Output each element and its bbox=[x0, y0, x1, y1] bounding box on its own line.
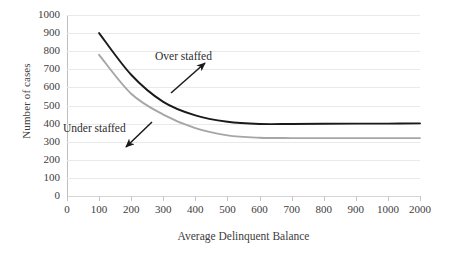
y-axis-tick-label: 700 bbox=[16, 63, 60, 74]
x-axis-tick-label: 2000 bbox=[400, 203, 440, 215]
gridline bbox=[67, 142, 420, 143]
x-axis-tick-mark bbox=[227, 196, 228, 201]
x-axis-tick-mark bbox=[388, 196, 389, 201]
y-axis-tick-label: 0 bbox=[16, 190, 60, 201]
x-axis-tick-mark bbox=[292, 196, 293, 201]
gridline bbox=[67, 15, 420, 16]
y-axis-tick-label: 900 bbox=[16, 27, 60, 38]
y-axis-tick-label: 100 bbox=[16, 172, 60, 183]
gridline bbox=[67, 33, 420, 34]
annotation-label-under-staffed: Under staffed bbox=[63, 122, 126, 134]
gridline bbox=[67, 106, 420, 107]
y-axis-tick-label: 400 bbox=[16, 118, 60, 129]
x-axis-tick-mark bbox=[356, 196, 357, 201]
gridline bbox=[67, 160, 420, 161]
x-axis-tick-mark bbox=[99, 196, 100, 201]
gridline bbox=[67, 87, 420, 88]
x-axis-tick-mark bbox=[131, 196, 132, 201]
y-axis-tick-label: 800 bbox=[16, 45, 60, 56]
gridline bbox=[67, 51, 420, 52]
gridline bbox=[67, 196, 420, 197]
annotation-label-over-staffed: Over staffed bbox=[155, 50, 212, 62]
x-axis-title: Average Delinquent Balance bbox=[67, 230, 420, 242]
y-axis-tick-label: 500 bbox=[16, 100, 60, 111]
gridlines bbox=[67, 15, 420, 196]
x-axis-tick-mark bbox=[260, 196, 261, 201]
y-axis-tick-label: 200 bbox=[16, 154, 60, 165]
x-axis-tick-mark bbox=[67, 196, 68, 201]
x-axis-tick-mark bbox=[324, 196, 325, 201]
y-axis-tick-label: 1000 bbox=[16, 9, 60, 20]
y-axis-tick-label: 300 bbox=[16, 136, 60, 147]
gridline bbox=[67, 69, 420, 70]
y-axis-tick-label: 600 bbox=[16, 81, 60, 92]
x-axis-tick-mark bbox=[163, 196, 164, 201]
gridline bbox=[67, 178, 420, 179]
x-axis-tick-mark bbox=[420, 196, 421, 201]
chart-figure: Number of cases 010020030040050060070080… bbox=[0, 0, 461, 257]
x-axis-tick-mark bbox=[195, 196, 196, 201]
